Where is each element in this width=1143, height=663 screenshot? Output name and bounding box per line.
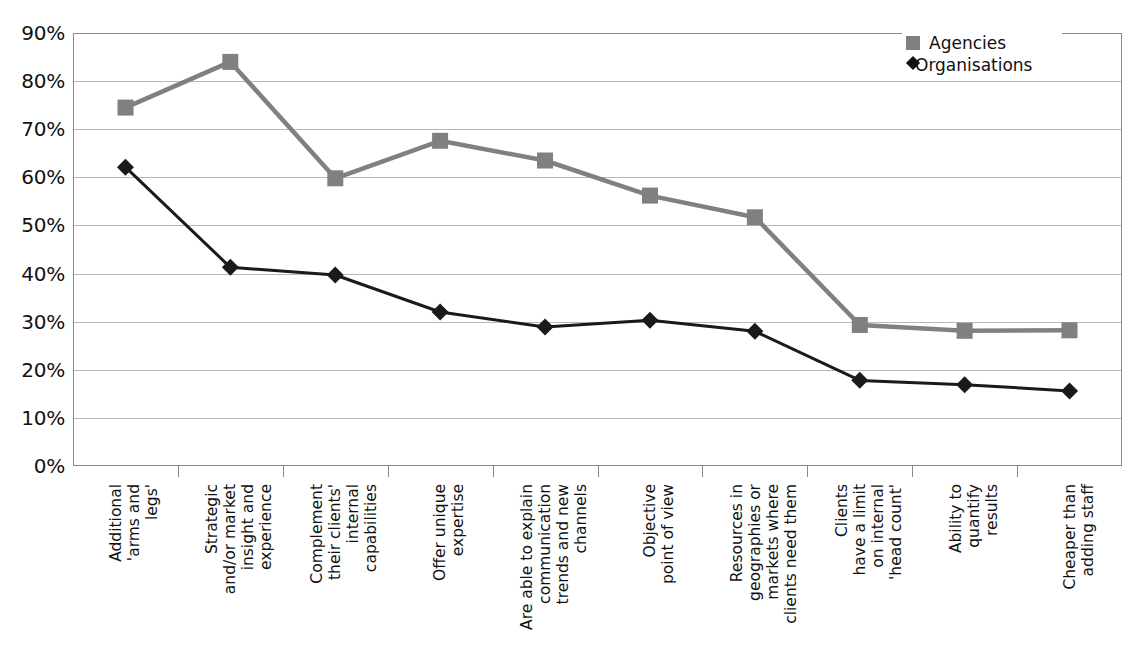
y-tick-label: 40% [21,262,65,286]
legend-item-organisations[interactable]: Organisations [906,54,1056,76]
square-marker-icon [906,36,920,50]
chart-legend: Agencies Organisations [902,30,1062,76]
y-tick-label: 20% [21,358,65,382]
x-tick [388,466,389,477]
gridline [74,418,1121,419]
y-tick-label: 50% [21,213,65,237]
x-tick [178,466,179,477]
y-tick-label: 0% [34,454,65,478]
gridline [74,322,1121,323]
legend-item-agencies[interactable]: Agencies [906,32,1056,54]
x-axis-label: Cheaper than adding staff [1061,484,1097,663]
y-tick-label: 80% [21,69,65,93]
x-tick [912,466,913,477]
legend-label: Organisations [915,55,1032,75]
y-tick-label: 30% [21,310,65,334]
gridline [74,274,1121,275]
gridline [74,370,1121,371]
x-tick [493,466,494,477]
x-axis-label: Ability to quantify results [947,484,1001,663]
gridline [74,225,1121,226]
y-tick-label: 90% [21,21,65,45]
x-tick [598,466,599,477]
y-axis: 0%10%20%30%40%50%60%70%80%90% [0,0,73,500]
line-chart: 0%10%20%30%40%50%60%70%80%90% Additional… [0,0,1143,663]
x-axis-label: Strategic and/or market insight and expe… [203,484,275,663]
x-axis-label: Complement their clients' internal capab… [308,484,380,663]
x-axis-label: Offer unique expertise [431,484,467,663]
y-tick-label: 10% [21,406,65,430]
x-tick [702,466,703,477]
x-tick [283,466,284,477]
x-axis-label: Are able to explain communication trends… [518,484,590,663]
x-axis-label: Objective point of view [641,484,677,663]
x-axis-label: Additional 'arms and legs' [107,484,161,663]
x-tick [807,466,808,477]
y-tick-label: 60% [21,165,65,189]
x-tick [1017,466,1018,477]
gridline [74,177,1121,178]
gridline [74,129,1121,130]
plot-area [73,33,1122,466]
x-axis-label: Clients have a limit on internal 'head c… [833,484,905,663]
x-axis-label: Resources in geographies or markets wher… [728,484,800,663]
legend-label: Agencies [929,33,1006,53]
y-tick-label: 70% [21,117,65,141]
gridline [74,81,1121,82]
